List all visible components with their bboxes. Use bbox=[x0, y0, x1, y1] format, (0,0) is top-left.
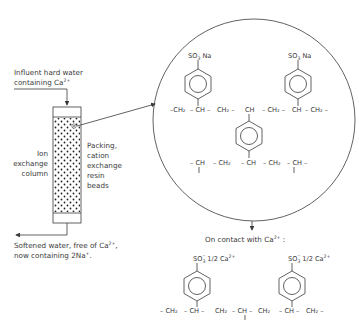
contact-label: On contact with Ca2+ : bbox=[205, 235, 285, 244]
benzene-ring-icon bbox=[279, 263, 305, 307]
svg-text:SO3– 1/2 Ca2+: SO3– 1/2 Ca2+ bbox=[193, 253, 236, 264]
resin-structure-na-form: SO3 Na SO3 Na –CH₂ – CH – CH₂ – CH – CH₂… bbox=[170, 52, 328, 173]
svg-text:SO3 Na: SO3 Na bbox=[188, 52, 211, 61]
svg-text:now containing 2Na+.: now containing 2Na+. bbox=[14, 251, 92, 260]
resin-structure-ca-form: SO3– 1/2 Ca2+ SO3– 1/2 Ca2+ – CH₂ – CH –… bbox=[160, 253, 331, 320]
svg-text:Ion: Ion bbox=[37, 149, 48, 158]
benzene-ring-icon bbox=[285, 60, 311, 106]
resin-bead-packing bbox=[54, 118, 80, 212]
ion-exchange-column bbox=[53, 107, 81, 223]
svg-text:exchange: exchange bbox=[13, 159, 48, 168]
benzene-ring-icon bbox=[236, 114, 262, 158]
effluent-pipe-arrow bbox=[16, 223, 67, 235]
polymer-chain-ca: – CH₂ – CH – CH₂ – CH – CH₂ – CH – CH₂ – bbox=[160, 307, 324, 315]
svg-text:SO3 Na: SO3 Na bbox=[288, 52, 311, 61]
benzene-ring-icon bbox=[185, 60, 211, 106]
influent-pipe-arrow bbox=[14, 89, 67, 105]
svg-text:Influent hard water: Influent hard water bbox=[14, 68, 83, 77]
svg-text:resin: resin bbox=[87, 171, 105, 180]
magnify-pointer-arrow bbox=[77, 104, 155, 126]
svg-text:Softened water, free of Ca2+,: Softened water, free of Ca2+, bbox=[14, 241, 118, 250]
ion-exchange-diagram: Influent hard water containing Ca2+ Ion … bbox=[0, 0, 359, 330]
column-label: Ion exchange column bbox=[13, 149, 48, 178]
packing-label: Packing, cation exchange resin beads bbox=[87, 141, 122, 190]
benzene-ring-icon bbox=[184, 263, 210, 307]
svg-text:exchange: exchange bbox=[87, 161, 122, 170]
polymer-chain-top: –CH₂ – CH – CH₂ – CH – CH₂ – CH – CH₂ – bbox=[170, 106, 328, 114]
svg-text:column: column bbox=[22, 169, 48, 178]
svg-text:Packing,: Packing, bbox=[87, 141, 117, 150]
influent-label: Influent hard water containing Ca2+ bbox=[14, 68, 83, 87]
svg-text:cation: cation bbox=[87, 151, 109, 160]
effluent-label: Softened water, free of Ca2+, now contai… bbox=[14, 241, 118, 260]
svg-text:beads: beads bbox=[87, 181, 109, 190]
polymer-chain-bottom: – CH – CH₂ – CH – CH₂ – CH – bbox=[190, 159, 307, 167]
svg-text:containing Ca2+: containing Ca2+ bbox=[14, 78, 70, 87]
magnified-view-circle bbox=[153, 19, 355, 221]
svg-text:SO3– 1/2 Ca2+: SO3– 1/2 Ca2+ bbox=[288, 253, 331, 264]
